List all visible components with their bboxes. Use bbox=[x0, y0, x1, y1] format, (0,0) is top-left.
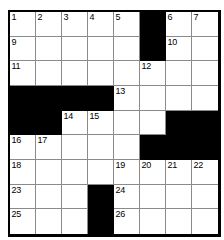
clue-number: 7 bbox=[194, 12, 199, 22]
letter-cell[interactable] bbox=[88, 135, 114, 160]
block-cell bbox=[140, 135, 166, 160]
clue-number: 5 bbox=[116, 12, 121, 22]
letter-cell[interactable]: 12 bbox=[140, 61, 166, 86]
letter-cell[interactable] bbox=[192, 185, 218, 210]
block-cell bbox=[88, 209, 114, 234]
letter-cell[interactable] bbox=[36, 185, 62, 210]
letter-cell[interactable] bbox=[166, 185, 192, 210]
clue-number: 13 bbox=[116, 86, 125, 96]
clue-number: 11 bbox=[12, 61, 21, 71]
clue-number: 9 bbox=[12, 37, 17, 47]
block-cell bbox=[166, 111, 192, 136]
letter-cell[interactable]: 22 bbox=[192, 160, 218, 185]
clue-number: 26 bbox=[116, 209, 125, 219]
letter-cell[interactable] bbox=[166, 209, 192, 234]
letter-cell[interactable] bbox=[62, 209, 88, 234]
block-cell bbox=[88, 86, 114, 111]
letter-cell[interactable]: 23 bbox=[10, 185, 36, 210]
letter-cell[interactable] bbox=[88, 37, 114, 62]
letter-cell[interactable] bbox=[62, 37, 88, 62]
block-cell bbox=[192, 111, 218, 136]
block-cell bbox=[62, 86, 88, 111]
letter-cell[interactable] bbox=[114, 61, 140, 86]
letter-cell[interactable]: 21 bbox=[166, 160, 192, 185]
clue-number: 2 bbox=[38, 12, 43, 22]
clue-number: 16 bbox=[12, 135, 21, 145]
clue-number: 15 bbox=[90, 111, 99, 121]
clue-number: 21 bbox=[168, 160, 177, 170]
letter-cell[interactable] bbox=[36, 160, 62, 185]
letter-cell[interactable] bbox=[166, 61, 192, 86]
letter-cell[interactable]: 5 bbox=[114, 12, 140, 37]
letter-cell[interactable] bbox=[192, 37, 218, 62]
clue-number: 19 bbox=[116, 160, 125, 170]
block-cell bbox=[36, 86, 62, 111]
letter-cell[interactable]: 24 bbox=[114, 185, 140, 210]
letter-cell[interactable] bbox=[192, 61, 218, 86]
clue-number: 18 bbox=[12, 160, 21, 170]
letter-cell[interactable] bbox=[192, 209, 218, 234]
clue-number: 3 bbox=[64, 12, 69, 22]
letter-cell[interactable] bbox=[88, 61, 114, 86]
letter-cell[interactable]: 9 bbox=[10, 37, 36, 62]
clue-number: 1 bbox=[12, 12, 17, 22]
block-cell bbox=[88, 185, 114, 210]
clue-number: 25 bbox=[12, 209, 21, 219]
clue-number: 4 bbox=[90, 12, 95, 22]
letter-cell[interactable]: 13 bbox=[114, 86, 140, 111]
letter-cell[interactable] bbox=[114, 37, 140, 62]
block-cell bbox=[140, 12, 166, 37]
letter-cell[interactable]: 1 bbox=[10, 12, 36, 37]
letter-cell[interactable]: 14 bbox=[62, 111, 88, 136]
letter-cell[interactable] bbox=[36, 209, 62, 234]
block-cell bbox=[10, 86, 36, 111]
clue-number: 22 bbox=[194, 160, 203, 170]
block-cell bbox=[192, 135, 218, 160]
letter-cell[interactable] bbox=[114, 135, 140, 160]
letter-cell[interactable] bbox=[140, 111, 166, 136]
letter-cell[interactable]: 15 bbox=[88, 111, 114, 136]
letter-cell[interactable] bbox=[140, 86, 166, 111]
letter-cell[interactable]: 7 bbox=[192, 12, 218, 37]
block-cell bbox=[10, 111, 36, 136]
letter-cell[interactable]: 2 bbox=[36, 12, 62, 37]
clue-number: 17 bbox=[38, 135, 47, 145]
block-cell bbox=[140, 37, 166, 62]
clue-number: 12 bbox=[142, 61, 151, 71]
letter-cell[interactable] bbox=[166, 86, 192, 111]
clue-number: 10 bbox=[168, 37, 177, 47]
letter-cell[interactable]: 26 bbox=[114, 209, 140, 234]
clue-number: 23 bbox=[12, 185, 21, 195]
letter-cell[interactable] bbox=[114, 111, 140, 136]
letter-cell[interactable] bbox=[62, 160, 88, 185]
letter-cell[interactable] bbox=[62, 185, 88, 210]
letter-cell[interactable] bbox=[140, 209, 166, 234]
letter-cell[interactable] bbox=[62, 61, 88, 86]
letter-cell[interactable]: 3 bbox=[62, 12, 88, 37]
letter-cell[interactable]: 20 bbox=[140, 160, 166, 185]
clue-number: 14 bbox=[64, 111, 73, 121]
letter-cell[interactable] bbox=[36, 61, 62, 86]
letter-cell[interactable]: 19 bbox=[114, 160, 140, 185]
letter-cell[interactable]: 6 bbox=[166, 12, 192, 37]
letter-cell[interactable] bbox=[36, 37, 62, 62]
letter-cell[interactable] bbox=[62, 135, 88, 160]
letter-cell[interactable]: 11 bbox=[10, 61, 36, 86]
letter-cell[interactable] bbox=[192, 86, 218, 111]
letter-cell[interactable]: 18 bbox=[10, 160, 36, 185]
letter-cell[interactable]: 10 bbox=[166, 37, 192, 62]
clue-number: 24 bbox=[116, 185, 125, 195]
letter-cell[interactable] bbox=[88, 160, 114, 185]
crossword-grid[interactable]: 1234567910111213141516171819202122232425… bbox=[8, 10, 221, 237]
letter-cell[interactable] bbox=[140, 185, 166, 210]
letter-cell[interactable]: 25 bbox=[10, 209, 36, 234]
letter-cell[interactable]: 4 bbox=[88, 12, 114, 37]
crossword-puzzle: 1234567910111213141516171819202122232425… bbox=[0, 0, 224, 240]
clue-number: 6 bbox=[168, 12, 173, 22]
block-cell bbox=[36, 111, 62, 136]
letter-cell[interactable]: 17 bbox=[36, 135, 62, 160]
letter-cell[interactable]: 16 bbox=[10, 135, 36, 160]
clue-number: 20 bbox=[142, 160, 151, 170]
block-cell bbox=[166, 135, 192, 160]
